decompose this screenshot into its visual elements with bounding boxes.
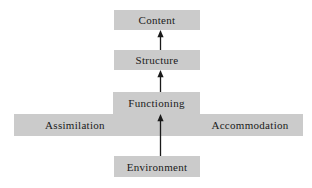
node-structure: Structure bbox=[114, 50, 200, 70]
node-structure-label: Structure bbox=[135, 54, 178, 66]
node-content-label: Content bbox=[139, 14, 176, 26]
label-accommodation: Accommodation bbox=[202, 114, 298, 136]
label-assimilation: Assimilation bbox=[30, 114, 120, 136]
node-environment: Environment bbox=[114, 156, 200, 177]
node-environment-label: Environment bbox=[127, 161, 188, 173]
arrow-environment-to-functioning-icon bbox=[156, 114, 165, 156]
arrow-functioning-to-structure-icon bbox=[156, 70, 165, 92]
node-content: Content bbox=[114, 10, 200, 30]
node-functioning: Functioning bbox=[113, 92, 200, 114]
label-accommodation-text: Accommodation bbox=[211, 119, 288, 131]
diagram-canvas: Content Structure Functioning Assimilati… bbox=[0, 0, 312, 188]
node-functioning-label: Functioning bbox=[128, 97, 184, 109]
arrow-structure-to-content-icon bbox=[156, 30, 165, 50]
label-assimilation-text: Assimilation bbox=[45, 119, 105, 131]
